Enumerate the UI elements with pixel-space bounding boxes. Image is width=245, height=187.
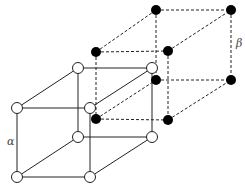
beta-node <box>226 75 236 85</box>
alpha-node <box>73 63 84 74</box>
alpha-node <box>147 63 158 74</box>
beta-node <box>226 5 236 15</box>
beta-node <box>163 115 173 125</box>
beta-node <box>91 114 101 124</box>
alpha-node <box>12 172 23 183</box>
cubic-lattice-diagram: α β <box>0 0 245 187</box>
alpha-label: α <box>7 135 15 148</box>
alpha-node <box>12 103 23 114</box>
beta-lattice-nodes <box>91 5 236 125</box>
alpha-node <box>85 172 96 183</box>
beta-node <box>163 46 173 56</box>
beta-label: β <box>235 37 242 50</box>
beta-node <box>151 5 161 15</box>
alpha-node <box>73 132 84 143</box>
beta-lattice-edges <box>96 10 231 120</box>
alpha-lattice-edges <box>17 68 152 177</box>
alpha-node <box>147 132 158 143</box>
beta-node <box>91 47 101 57</box>
alpha-lattice-nodes <box>12 63 158 183</box>
beta-node <box>151 75 161 85</box>
alpha-node <box>85 103 96 114</box>
